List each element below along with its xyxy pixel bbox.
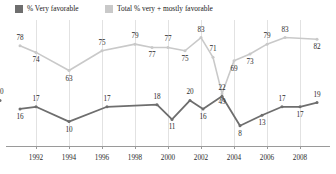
data-label: 18	[154, 93, 161, 101]
data-point	[233, 59, 236, 62]
data-point	[106, 105, 109, 108]
data-point	[167, 46, 170, 49]
data-point	[316, 38, 319, 41]
x-axis: 199219941996199820002002200420062008	[0, 146, 336, 172]
data-point	[284, 36, 287, 39]
data-label: 71	[210, 45, 217, 53]
data-point	[239, 124, 242, 127]
data-label: 77	[165, 35, 172, 43]
data-label: 82	[314, 43, 321, 51]
x-axis-tick-label: 1996	[95, 154, 109, 162]
data-label: 75	[182, 55, 189, 63]
x-axis-tick-label: 1992	[29, 154, 43, 162]
chart-legend: % Very favorable Total % very + mostly f…	[0, 2, 336, 18]
data-point	[171, 118, 174, 121]
data-label: 20	[0, 88, 4, 96]
x-axis-tick-label: 2008	[293, 154, 307, 162]
data-point	[212, 56, 215, 59]
data-label: 69	[231, 65, 238, 73]
data-label: 17	[104, 95, 111, 103]
data-point	[101, 49, 104, 52]
plot-area: 78746375797777758371496973798382 1617101…	[0, 20, 336, 146]
data-label: 77	[149, 51, 156, 59]
data-point	[316, 101, 319, 104]
data-label: 74	[33, 56, 40, 64]
data-point	[299, 105, 302, 108]
data-point	[221, 92, 224, 95]
data-label: 11	[169, 123, 176, 131]
data-point	[35, 105, 38, 108]
data-point	[281, 105, 284, 108]
data-point	[19, 107, 22, 110]
data-point	[184, 49, 187, 52]
data-point	[189, 99, 192, 102]
data-label: 78	[17, 34, 24, 42]
data-label: 49	[219, 98, 226, 106]
data-label: 13	[259, 119, 266, 127]
data-point	[35, 51, 38, 54]
data-label: 17	[33, 95, 40, 103]
data-point	[266, 43, 269, 46]
data-point	[68, 69, 71, 72]
data-label: 17	[297, 111, 304, 119]
legend-item-very-favorable: % Very favorable	[15, 4, 79, 13]
data-point	[249, 53, 252, 56]
data-point	[261, 114, 264, 117]
data-label: 20	[187, 88, 194, 96]
data-point	[202, 107, 205, 110]
x-axis-tick-label: 2002	[194, 154, 208, 162]
favorability-line-chart: % Very favorable Total % very + mostly f…	[0, 0, 336, 174]
data-point	[68, 120, 71, 123]
data-label: 83	[198, 26, 205, 34]
data-point	[200, 36, 203, 39]
data-label: 79	[132, 32, 139, 40]
legend-swatch-light-icon	[105, 5, 113, 13]
data-label: 73	[247, 58, 254, 66]
data-label: 17	[279, 95, 286, 103]
data-label: 75	[99, 39, 106, 47]
data-label: 83	[282, 26, 289, 34]
data-label: 19	[314, 91, 321, 99]
data-point	[19, 44, 22, 47]
x-axis-tick-label: 2006	[260, 154, 274, 162]
legend-swatch-dark-icon	[15, 5, 23, 13]
x-axis-tick-label: 1994	[62, 154, 76, 162]
x-axis-tick-label: 2000	[161, 154, 175, 162]
data-label: 79	[264, 32, 271, 40]
data-label: 16	[17, 113, 24, 121]
data-point	[134, 43, 137, 46]
data-label: 16	[200, 113, 207, 121]
data-label: 63	[66, 75, 73, 83]
legend-label-total-favorable: Total % very + mostly favorable	[117, 4, 213, 13]
legend-label-very-favorable: % Very favorable	[27, 4, 79, 13]
data-label: 22	[219, 84, 226, 92]
legend-item-total-favorable: Total % very + mostly favorable	[105, 4, 213, 13]
data-point	[151, 46, 154, 49]
data-point	[0, 99, 2, 102]
data-point	[156, 103, 159, 106]
x-axis-tick-label: 2004	[227, 154, 241, 162]
data-label: 10	[66, 126, 73, 134]
data-label: 8	[238, 130, 242, 138]
x-axis-tick-label: 1998	[128, 154, 142, 162]
